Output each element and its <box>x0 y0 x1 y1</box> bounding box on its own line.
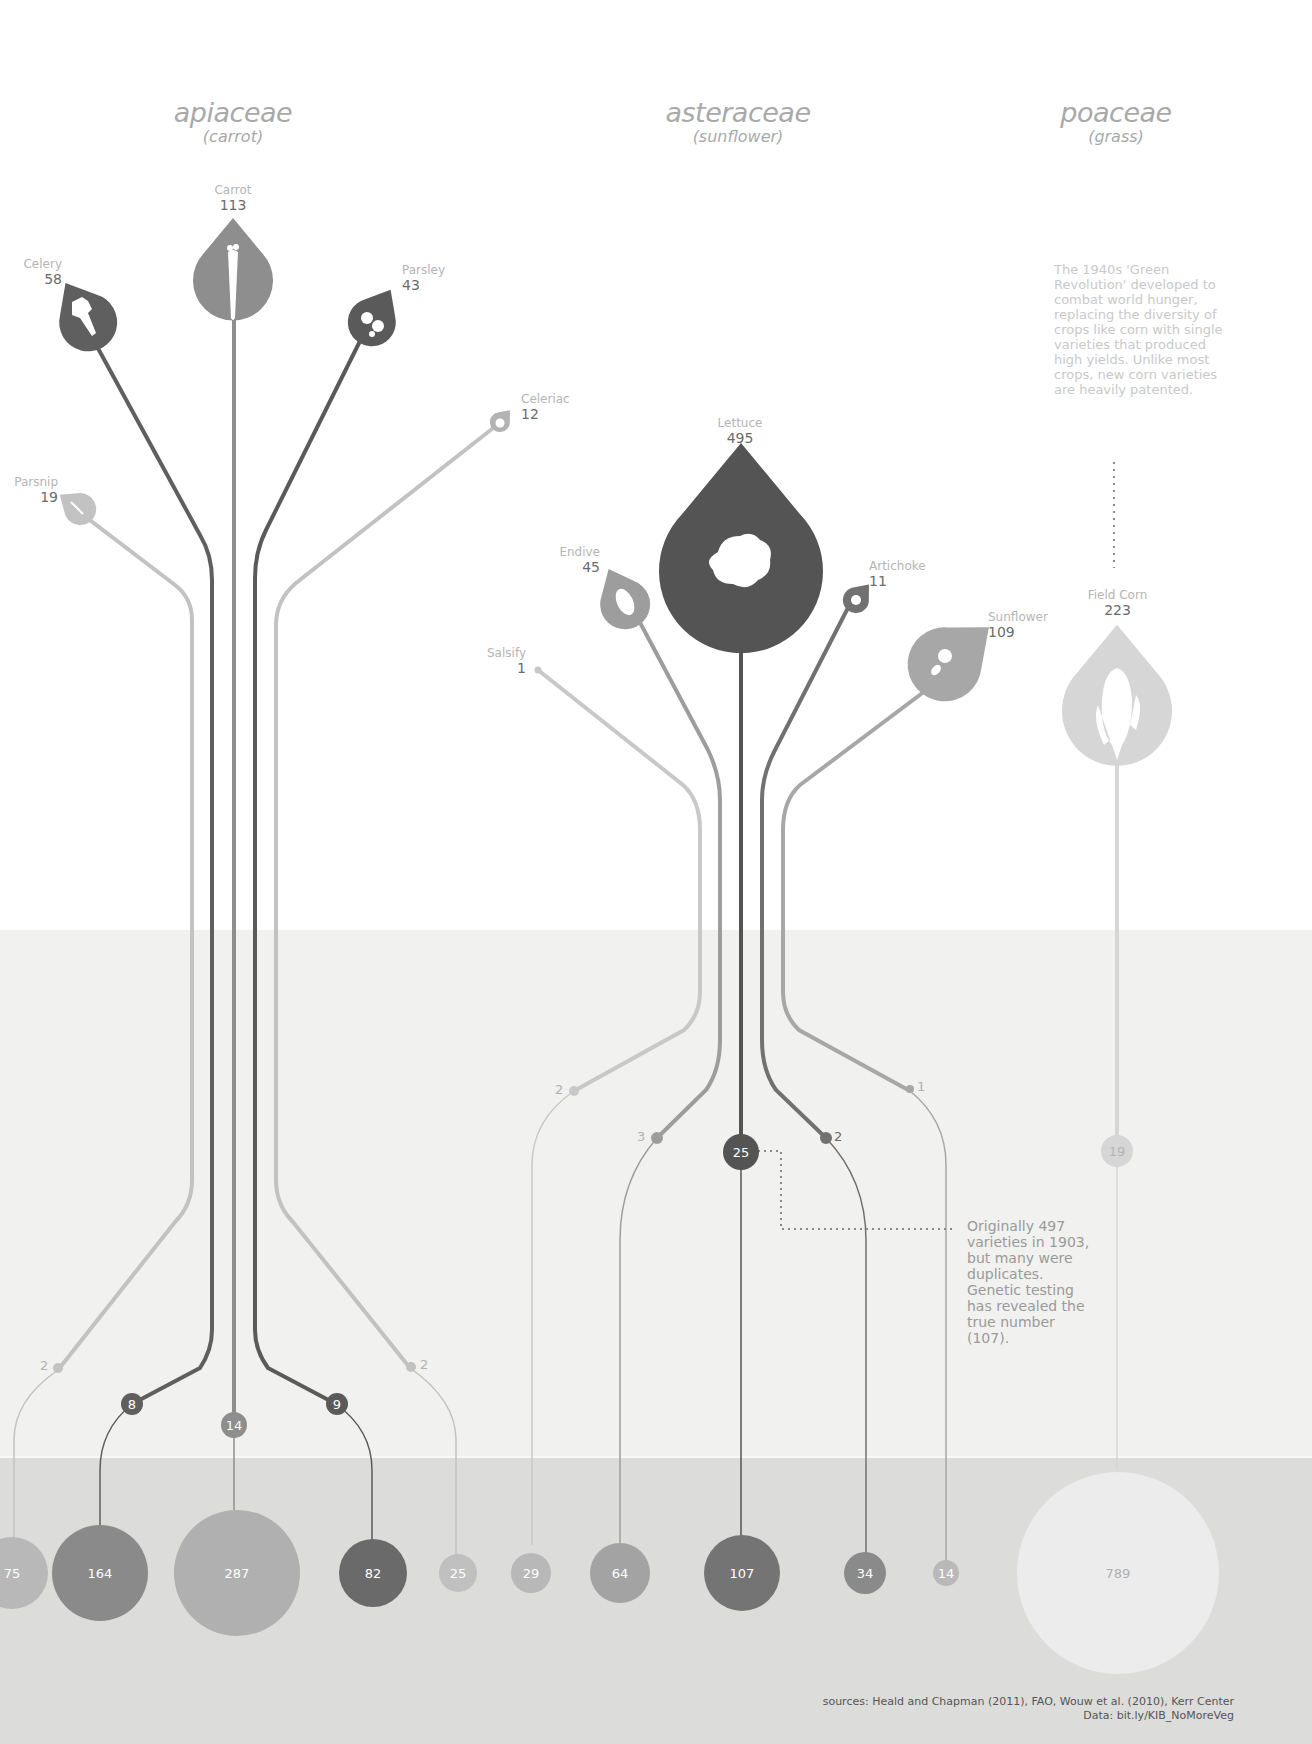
green-revolution-note: The 1940s 'Green Revolution' developed t… <box>1054 262 1234 397</box>
artichoke-mid-value: 2 <box>834 1129 842 1144</box>
parsley-leaf <box>339 278 411 355</box>
lettuce-bottom-value: 107 <box>730 1566 755 1581</box>
family-title-poaceae: poaceae (grass) <box>1016 98 1216 146</box>
family-title-asteraceae: asteraceae (sunflower) <box>638 98 838 146</box>
parsnip-stem <box>58 508 192 1370</box>
parsnip-mid-node <box>53 1363 63 1373</box>
artichoke-mid-node <box>820 1132 832 1144</box>
celery-mid-value: 8 <box>128 1397 136 1412</box>
label-celery: Celery58 <box>0 257 62 287</box>
artichoke-icon <box>851 595 861 605</box>
parsley-mid-value: 9 <box>333 1397 341 1412</box>
label-endive: Endive45 <box>530 545 600 575</box>
sources-line: sources: Heald and Chapman (2011), FAO, … <box>823 1695 1234 1709</box>
carrot-mid-value: 14 <box>226 1418 243 1433</box>
celeriac-bottom-value: 25 <box>450 1566 467 1581</box>
celeriac-mid-value: 2 <box>420 1357 428 1372</box>
parsnip-mid-value: 2 <box>40 1358 48 1373</box>
label-parsnip: Parsnip19 <box>0 475 58 505</box>
artichoke-bottom-value: 34 <box>857 1566 874 1581</box>
salsify-mid-value: 2 <box>555 1082 563 1097</box>
lettuce-note-connector <box>752 1151 955 1229</box>
field-corn-bottom-value: 789 <box>1106 1566 1131 1581</box>
sunflower-stem <box>783 685 933 1091</box>
parsley-bottom-value: 82 <box>365 1566 382 1581</box>
salsify-mid-node <box>569 1086 579 1096</box>
salsify-leaf <box>535 667 542 674</box>
label-celeriac: Celeriac12 <box>521 392 601 422</box>
endive-mid-node <box>651 1132 663 1144</box>
celeriac-mid-node <box>406 1362 416 1372</box>
celery-bottom-value: 164 <box>88 1566 113 1581</box>
data-link: Data: bit.ly/KIB_NoMoreVeg <box>823 1709 1234 1723</box>
endive-stem <box>637 617 720 1138</box>
sunflower-mid-value: 1 <box>917 1079 925 1094</box>
sources-footer: sources: Heald and Chapman (2011), FAO, … <box>823 1695 1234 1723</box>
label-lettuce: Lettuce495 <box>700 416 780 446</box>
lettuce-note: Originally 497 varieties in 1903, but ma… <box>967 1218 1097 1346</box>
label-artichoke: Artichoke11 <box>869 559 959 589</box>
salsify-stem <box>538 670 700 1091</box>
field-corn-mid-value: 19 <box>1109 1144 1126 1159</box>
lettuce-mid-value: 25 <box>733 1145 750 1160</box>
salsify-bottom-value: 29 <box>523 1566 540 1581</box>
endive-bottom-value: 64 <box>612 1566 629 1581</box>
family-title-apiaceae: apiaceae (carrot) <box>133 98 333 146</box>
celeriac-stem <box>276 425 497 1368</box>
parsnip-bottom-value: 75 <box>4 1566 21 1581</box>
label-parsley: Parsley43 <box>402 263 482 293</box>
label-sunflower: Sunflower109 <box>988 610 1078 640</box>
sunflower-mid-node <box>906 1085 914 1093</box>
sunflower-bottom-value: 14 <box>938 1566 955 1581</box>
endive-mid-value: 3 <box>637 1129 645 1144</box>
artichoke-stem <box>762 600 852 1138</box>
label-salsify: Salsify1 <box>460 646 526 676</box>
celeriac-icon <box>496 419 505 428</box>
label-field-corn: Field Corn223 <box>1070 588 1165 618</box>
carrot-bottom-value: 287 <box>225 1566 250 1581</box>
label-carrot: Carrot113 <box>193 183 273 213</box>
